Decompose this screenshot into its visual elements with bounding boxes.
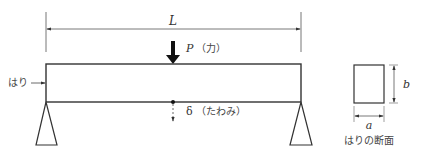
beam — [46, 64, 301, 102]
section-caption: はりの断面 — [344, 134, 394, 146]
span-label: L — [168, 14, 177, 28]
force-label: P（力） — [185, 42, 226, 55]
section-rect — [354, 65, 384, 103]
force-arrow-icon — [166, 41, 180, 64]
load-point-dot — [171, 100, 175, 104]
left-support-icon — [36, 102, 57, 145]
width-label: a — [366, 119, 373, 132]
right-support-icon — [290, 102, 312, 145]
cross-section: b a はりの断面 — [344, 65, 410, 146]
height-label: b — [403, 78, 410, 91]
beam-label: はり — [8, 77, 28, 88]
beam-diagram: L P（力） はり δ（たわみ） b a はりの断面 — [0, 0, 421, 154]
deflection-label: δ（たわみ） — [186, 105, 246, 118]
